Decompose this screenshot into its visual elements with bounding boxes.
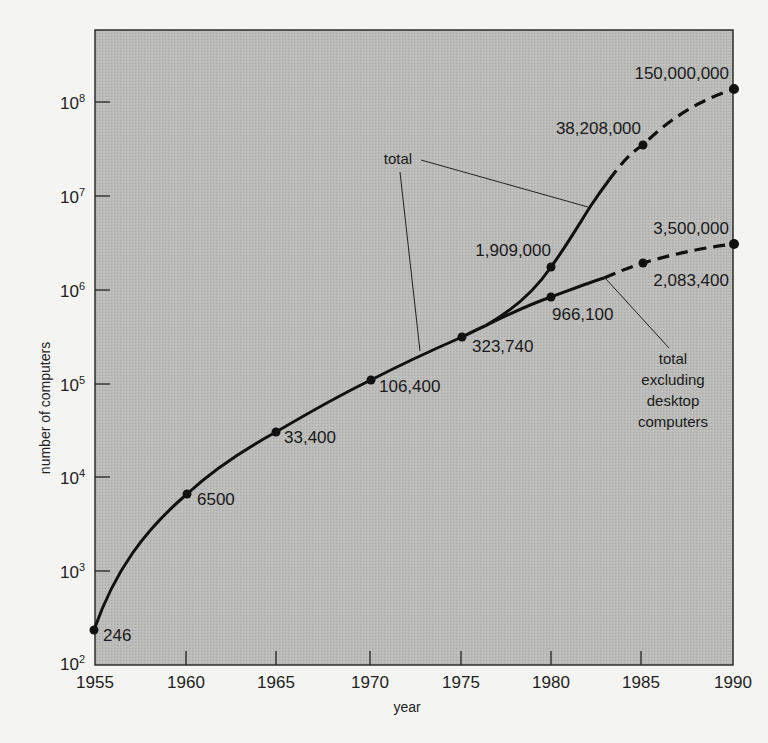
computers-growth-chart: 108 107 106 105 104 103 102 1955 1960 19… (0, 0, 768, 743)
data-label: 2,083,400 (653, 271, 729, 290)
data-label: 6500 (197, 490, 235, 509)
data-label: 246 (103, 626, 131, 645)
y-tick-label: 103 (60, 561, 85, 582)
data-point (547, 293, 556, 302)
y-tick-label: 108 (60, 92, 85, 113)
data-label: 1,909,000 (475, 241, 551, 260)
x-axis-title: year (393, 699, 421, 715)
x-tick-labels: 1955 1960 1965 1970 1975 1980 1985 1990 (76, 673, 752, 692)
data-point (729, 84, 739, 94)
x-tick-label: 1970 (351, 673, 389, 692)
data-point (639, 141, 648, 150)
x-tick-label: 1990 (714, 673, 752, 692)
data-label: 3,500,000 (653, 219, 729, 238)
x-tick-label: 1960 (167, 673, 205, 692)
data-label: 38,208,000 (556, 119, 641, 138)
data-label: 106,400 (379, 377, 440, 396)
y-tick-label: 105 (60, 374, 85, 395)
x-tick-label: 1975 (442, 673, 480, 692)
annotation-label: excluding (641, 371, 704, 388)
data-point (547, 263, 556, 272)
data-label: 33,400 (284, 428, 336, 447)
y-axis-title: number of computers (37, 342, 53, 474)
annotation-label: total (659, 350, 687, 367)
x-tick-label: 1965 (257, 673, 295, 692)
y-tick-labels: 108 107 106 105 104 103 102 (60, 92, 85, 674)
y-tick-label: 102 (60, 653, 85, 674)
annotation-label: desktop (647, 392, 700, 409)
x-tick-label: 1985 (622, 673, 660, 692)
y-tick-label: 106 (60, 280, 85, 301)
x-tick-label: 1955 (76, 673, 114, 692)
data-point (458, 333, 467, 342)
x-tick-label: 1980 (532, 673, 570, 692)
data-point (272, 428, 281, 437)
data-label: 323,740 (472, 337, 533, 356)
data-point (367, 376, 376, 385)
data-point (183, 490, 192, 499)
data-label: 150,000,000 (634, 64, 729, 83)
data-point (90, 626, 99, 635)
data-label: 966,100 (552, 305, 613, 324)
annotation-label: computers (638, 413, 708, 430)
data-point (639, 259, 648, 268)
y-tick-label: 104 (60, 467, 85, 488)
y-tick-label: 107 (60, 186, 85, 207)
annotation-label: total (384, 150, 412, 167)
data-point (729, 239, 739, 249)
